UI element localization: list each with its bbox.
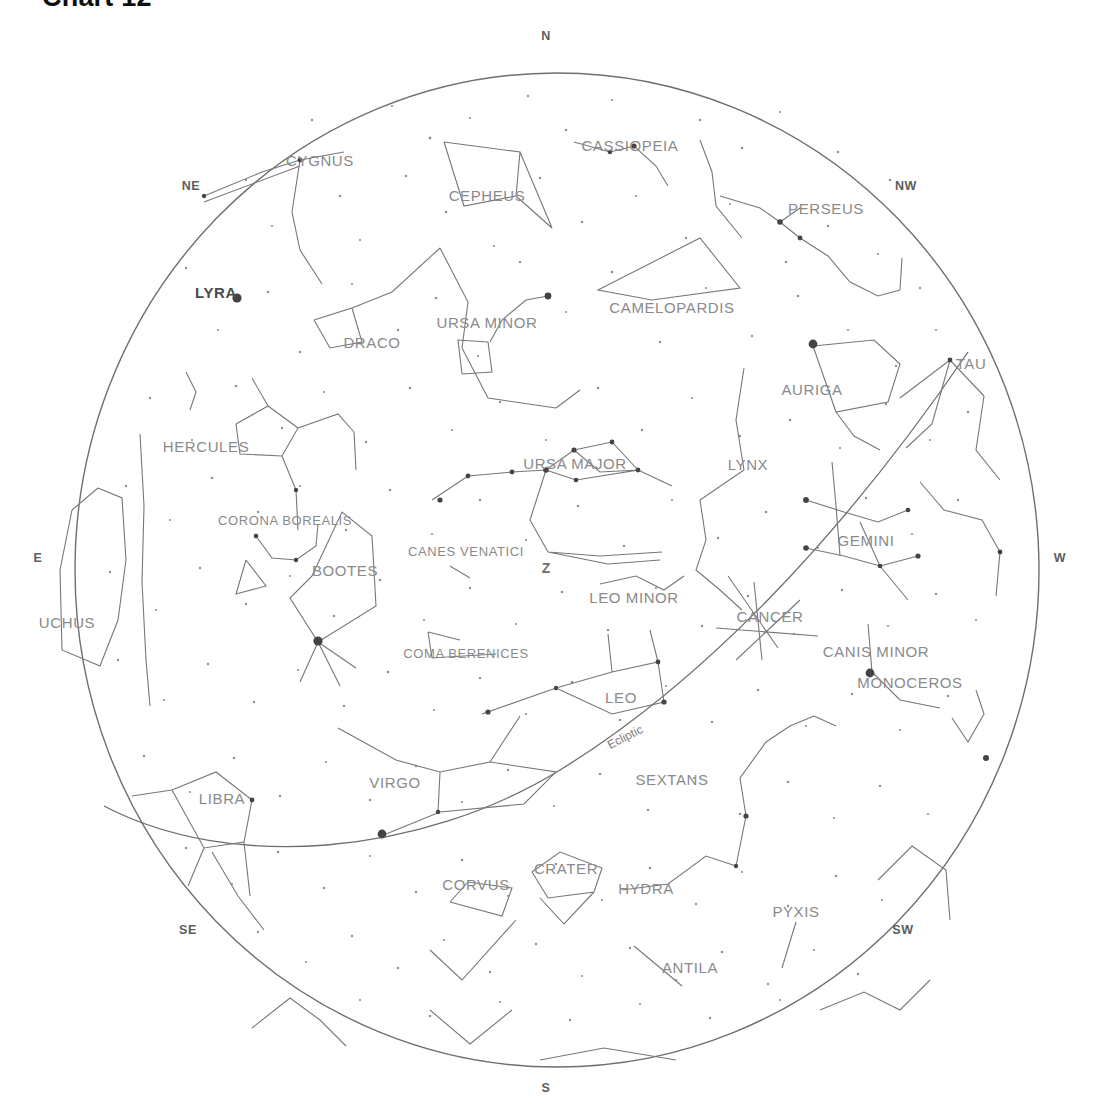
constellation-label-ursa_major[interactable]: URSA MAJOR [523,455,627,472]
asterism-camelopardis [598,238,740,300]
constellation-label-canis_minor[interactable]: CANIS MINOR [823,643,930,660]
constellation-label-antila[interactable]: ANTILA [662,959,718,976]
constellation-label-bootes[interactable]: BOOTES [312,562,378,579]
background-star-field [109,95,977,1021]
constellation-label-pyxis[interactable]: PYXIS [772,903,819,920]
asterism-auriga [813,340,900,412]
constellation-label-sextans[interactable]: SEXTANS [635,771,708,788]
zenith-marker-label: Z [542,560,551,576]
constellation-lines [60,140,1000,1060]
asterism-pyxis [782,922,796,968]
sky-map-svg[interactable] [0,0,1097,1116]
asterism-se-minor [212,852,264,930]
asterism-ophiuchus [60,488,126,666]
constellation-label-hydra[interactable]: HYDRA [618,880,674,897]
constellation-label-leo_minor[interactable]: LEO MINOR [589,589,679,606]
constellation-label-canes_venatici[interactable]: CANES VENATICI [408,544,524,559]
asterism-hydra [622,716,836,890]
asterism-sw-minor [820,980,930,1010]
constellation-label-lyra[interactable]: LYRA [195,284,237,301]
asterism-cygnus [204,152,344,284]
compass-label-se: SE [179,923,197,937]
constellation-label-leo[interactable]: LEO [605,689,637,706]
star-arcturus [313,636,322,645]
constellation-label-cancer[interactable]: CANCER [737,608,804,625]
compass-label-n: N [541,29,551,43]
star-capella [809,340,818,349]
constellation-label-monoceros[interactable]: MONOCEROS [857,674,962,691]
star-spica [378,830,387,839]
horizon-circle [75,73,1039,1067]
compass-label-e: E [34,551,43,565]
constellation-label-taurus[interactable]: TAU [956,355,987,372]
asterism-corona-borealis [256,524,318,560]
constellation-label-ophiuchus[interactable]: UCHUS [39,614,95,631]
asterism-canes-venatici [450,566,470,578]
asterism-lynx [696,368,744,610]
compass-label-s: S [542,1081,551,1095]
bright-stars [202,143,1003,868]
constellation-label-cygnus[interactable]: CYGNUS [286,152,354,169]
constellation-label-libra[interactable]: LIBRA [199,790,245,807]
asterism-cepheus [444,142,552,228]
constellation-label-crater[interactable]: CRATER [534,860,598,877]
compass-label-sw: SW [892,923,913,937]
constellation-label-hercules[interactable]: HERCULES [163,438,250,455]
star-polaris [545,293,552,300]
asterism-ursa-minor [458,296,548,374]
constellation-label-corona_borealis[interactable]: CORONA BOREALIS [218,513,352,528]
constellation-label-ursa_minor[interactable]: URSA MINOR [436,314,537,331]
constellation-label-coma_berenices[interactable]: COMA BERENICES [403,646,528,661]
constellation-label-corvus[interactable]: CORVUS [442,876,510,893]
compass-label-w: W [1054,551,1066,565]
constellation-label-cassiopeia[interactable]: CASSIOPEIA [582,137,679,154]
ecliptic-curve [104,352,968,847]
constellation-label-cepheus[interactable]: CEPHEUS [449,187,526,204]
compass-label-ne: NE [182,179,201,193]
asterism-hercules [236,378,356,530]
asterism-bootes [290,512,376,686]
constellation-label-perseus[interactable]: PERSEUS [788,200,864,217]
constellation-label-virgo[interactable]: VIRGO [369,774,420,791]
constellation-label-draco[interactable]: DRACO [343,334,400,351]
constellation-label-auriga[interactable]: AURIGA [781,381,842,398]
compass-label-nw: NW [895,179,917,193]
constellation-label-camelopardis[interactable]: CAMELOPARDIS [609,299,734,316]
star-chart-canvas[interactable] [0,0,1097,1116]
constellation-label-lynx[interactable]: LYNX [728,456,768,473]
constellation-label-gemini[interactable]: GEMINI [838,532,895,549]
